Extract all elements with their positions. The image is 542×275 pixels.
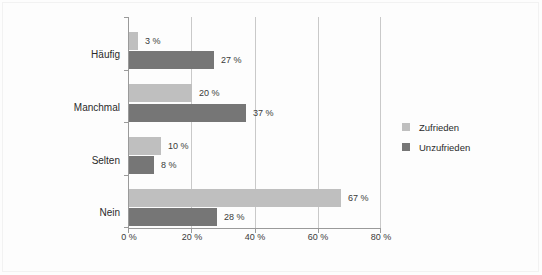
chart-figure: Häufig Manchmal Selten Nein 3 % 27 % (0, 0, 542, 275)
bar-zufrieden-selten[interactable] (129, 137, 161, 155)
ytick-4 (124, 227, 128, 228)
bar-unzufrieden-manchmal[interactable] (129, 104, 246, 122)
bar-value-unzufrieden-nein: 28 % (224, 208, 245, 226)
bar-zufrieden-manchmal[interactable] (129, 84, 192, 102)
bar-value-unzufrieden-manchmal: 37 % (253, 104, 274, 122)
legend-item-zufrieden[interactable]: Zufrieden (402, 117, 532, 137)
legend-label-zufrieden: Zufrieden (419, 122, 459, 133)
bar-unzufrieden-haeufig[interactable] (129, 51, 214, 69)
xtick-label-60: 60 % (308, 232, 329, 242)
xtick-label-20: 20 % (182, 232, 203, 242)
legend-swatch-unzufrieden (402, 143, 410, 151)
category-axis-labels: Häufig Manchmal Selten Nein (0, 17, 120, 228)
category-label-2: Selten (0, 155, 120, 166)
ytick-2 (124, 122, 128, 123)
chart-legend: Zufrieden Unzufrieden (402, 117, 532, 157)
bar-zufrieden-haeufig[interactable] (129, 32, 138, 50)
legend-swatch-zufrieden (402, 123, 410, 131)
bar-zufrieden-nein[interactable] (129, 189, 341, 207)
bar-value-zufrieden-manchmal: 20 % (199, 84, 220, 102)
ytick-3 (124, 175, 128, 176)
bar-value-unzufrieden-haeufig: 27 % (221, 51, 242, 69)
ytick-1 (124, 70, 128, 71)
bar-value-zufrieden-selten: 10 % (168, 137, 189, 155)
xtick-label-80: 80 % (371, 232, 392, 242)
xtick-label-0: 0 % (121, 232, 137, 242)
bar-value-unzufrieden-selten: 8 % (161, 156, 177, 174)
legend-item-unzufrieden[interactable]: Unzufrieden (402, 137, 532, 157)
bar-value-zufrieden-nein: 67 % (348, 189, 369, 207)
gridline-80 (380, 17, 381, 228)
value-axis-labels: 0 % 20 % 40 % 60 % 80 % (0, 232, 542, 248)
bar-unzufrieden-nein[interactable] (129, 208, 217, 226)
category-label-0: Häufig (0, 49, 120, 60)
xtick-label-40: 40 % (245, 232, 266, 242)
legend-label-unzufrieden: Unzufrieden (419, 142, 470, 153)
bar-value-zufrieden-haeufig: 3 % (145, 32, 161, 50)
plot-area: 3 % 27 % 20 % 37 % 10 % 8 % 67 % 28 % (128, 17, 381, 228)
category-label-1: Manchmal (0, 102, 120, 113)
bar-unzufrieden-selten[interactable] (129, 156, 154, 174)
ytick-0 (124, 17, 128, 18)
category-label-3: Nein (0, 207, 120, 218)
